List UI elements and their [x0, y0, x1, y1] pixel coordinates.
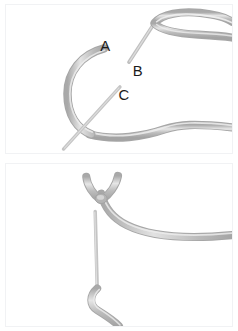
- suture-loop: [155, 12, 232, 37]
- top-panel: A B C: [5, 4, 233, 154]
- knot-v: [86, 176, 118, 204]
- bottom-panel: [5, 163, 233, 327]
- top-panel-illustration: A B C: [6, 5, 232, 153]
- label-c: C: [119, 87, 130, 103]
- needle-vertical: [95, 211, 97, 286]
- suture-tail-right: [89, 123, 232, 138]
- label-a: A: [100, 38, 110, 54]
- label-b: B: [133, 63, 143, 79]
- bottom-panel-illustration: [6, 164, 232, 326]
- suture-curve: [67, 48, 104, 134]
- suture-sweep-right: [101, 194, 232, 237]
- figure-root: A B C: [0, 0, 238, 331]
- needle-b: [129, 26, 153, 63]
- suture-u-loop: [91, 288, 120, 326]
